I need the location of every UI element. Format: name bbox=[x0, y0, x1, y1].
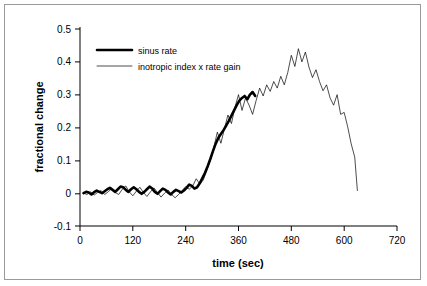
y-axis-title: fractional change bbox=[33, 81, 45, 172]
y-tick-label-5: 0.4 bbox=[57, 56, 71, 67]
y-tick-label-1: 0 bbox=[65, 188, 71, 199]
figure-border: -0.1 0 0.1 0.2 0.3 0.4 0.5 0 120 240 360… bbox=[4, 4, 421, 280]
x-tick-label-4: 480 bbox=[283, 235, 300, 246]
x-tick-label-2: 240 bbox=[177, 235, 194, 246]
y-tick-label-4: 0.3 bbox=[57, 89, 71, 100]
chart-area: -0.1 0 0.1 0.2 0.3 0.4 0.5 0 120 240 360… bbox=[5, 5, 422, 281]
x-tick-label-6: 720 bbox=[389, 235, 406, 246]
y-tick-label-3: 0.2 bbox=[57, 122, 71, 133]
x-axis-title: time (sec) bbox=[212, 257, 264, 269]
y-tick-label-2: 0.1 bbox=[57, 155, 71, 166]
x-ticks bbox=[80, 226, 397, 231]
y-ticks bbox=[75, 29, 80, 226]
x-tick-label-3: 360 bbox=[230, 235, 247, 246]
y-tick-label-6: 0.5 bbox=[57, 24, 71, 35]
x-tick-label-5: 600 bbox=[336, 235, 353, 246]
x-tick-label-0: 0 bbox=[77, 235, 83, 246]
series-line-sinus-rate bbox=[84, 92, 256, 194]
legend-label-inotropic-index: inotropic index x rate gain bbox=[138, 62, 241, 72]
y-tick-label-0: -0.1 bbox=[54, 221, 72, 232]
legend-label-sinus-rate: sinus rate bbox=[138, 46, 177, 56]
x-tick-label-1: 120 bbox=[124, 235, 141, 246]
legend: sinus rate inotropic index x rate gain bbox=[97, 46, 241, 72]
line-chart-svg: -0.1 0 0.1 0.2 0.3 0.4 0.5 0 120 240 360… bbox=[5, 5, 422, 281]
